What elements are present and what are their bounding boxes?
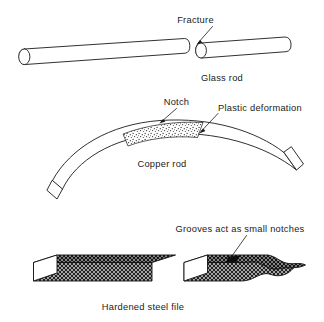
steel-file-panel: Grooves act as small notches Hardened st…	[34, 224, 306, 313]
glass-rod-right-end-face	[196, 43, 207, 58]
steel-file-intact	[34, 255, 176, 281]
copper-rod-caption: Copper rod	[137, 159, 186, 169]
copper-rod-panel: Notch Plastic deformation Copper rod	[47, 97, 303, 199]
glass-rod-left-end-face	[19, 49, 30, 65]
plastic-deformation-label: Plastic deformation	[218, 103, 302, 113]
fracture-label: Fracture	[177, 15, 214, 25]
glass-rod-panel: Fracture Glass rod	[19, 15, 291, 84]
notch-label: Notch	[164, 97, 190, 107]
glass-rod-left-segment	[19, 39, 190, 65]
glass-rod-caption: Glass rod	[201, 73, 243, 83]
grooves-label: Grooves act as small notches	[176, 224, 305, 234]
glass-rod-right-segment	[196, 37, 291, 58]
steel-file-caption: Hardened steel file	[102, 302, 184, 312]
steel-file-fractured	[184, 255, 306, 281]
fracture-behavior-figure: Fracture Glass rod Notch	[0, 0, 324, 322]
